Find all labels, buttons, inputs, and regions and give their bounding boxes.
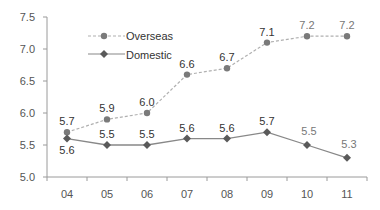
data-point-circle-marker-icon[interactable] [224, 65, 230, 71]
series-layer: 5.75.96.06.66.77.17.27.25.65.55.55.65.65… [59, 19, 356, 162]
y-tick-label: 7.0 [20, 43, 35, 55]
x-tick-label: 04 [61, 188, 73, 200]
data-label: 5.5 [99, 128, 114, 140]
data-label: 5.6 [59, 144, 74, 156]
legend-label-domestic: Domestic [126, 49, 172, 61]
line-chart: 5.05.56.06.57.07.5 0405060708091011 5.75… [0, 0, 380, 210]
legend-item-overseas[interactable]: Overseas [88, 30, 174, 42]
y-tick-label: 6.0 [20, 107, 35, 119]
x-tick-label: 10 [301, 188, 313, 200]
data-point-circle-marker-icon[interactable] [304, 33, 310, 39]
y-tick-label: 6.5 [20, 75, 35, 87]
data-point-diamond-marker-icon[interactable] [303, 141, 311, 149]
data-point-circle-marker-icon[interactable] [344, 33, 350, 39]
data-point-circle-marker-icon[interactable] [104, 116, 110, 122]
x-tick-label: 07 [181, 188, 193, 200]
y-tick-label: 7.5 [20, 11, 35, 23]
legend: Overseas Domestic [88, 30, 174, 61]
data-point-diamond-marker-icon[interactable] [343, 154, 351, 162]
data-point-circle-marker-icon[interactable] [264, 39, 270, 45]
data-label: 5.7 [59, 115, 74, 127]
data-label: 5.5 [301, 125, 316, 137]
data-point-circle-marker-icon[interactable] [184, 71, 190, 77]
data-point-circle-marker-icon[interactable] [144, 110, 150, 116]
data-label: 7.1 [259, 26, 274, 38]
data-point-diamond-marker-icon[interactable] [143, 141, 151, 149]
data-point-diamond-marker-icon[interactable] [183, 135, 191, 143]
x-tick-label: 08 [221, 188, 233, 200]
data-label: 6.0 [139, 96, 154, 108]
data-label: 7.2 [339, 19, 354, 31]
legend-item-domestic[interactable]: Domestic [88, 49, 172, 61]
x-tick-label: 06 [141, 188, 153, 200]
series-domestic: 5.65.55.55.65.65.75.55.3 [59, 115, 356, 162]
data-label: 5.5 [139, 128, 154, 140]
x-tick-label: 09 [261, 188, 273, 200]
data-label: 7.2 [299, 19, 314, 31]
y-tick-label: 5.0 [20, 171, 35, 183]
data-label: 5.7 [259, 115, 274, 127]
data-label: 5.3 [341, 138, 356, 150]
legend-diamond-marker-icon [100, 50, 108, 58]
data-point-diamond-marker-icon[interactable] [103, 141, 111, 149]
data-point-diamond-marker-icon[interactable] [263, 128, 271, 136]
data-point-diamond-marker-icon[interactable] [63, 135, 71, 143]
data-label: 6.6 [179, 58, 194, 70]
data-point-circle-marker-icon[interactable] [64, 129, 70, 135]
y-axis: 5.05.56.06.57.07.5 [20, 11, 47, 183]
data-label: 5.6 [219, 122, 234, 134]
x-tick-label: 11 [341, 188, 352, 200]
legend-circle-marker-icon [101, 33, 107, 39]
data-point-diamond-marker-icon[interactable] [223, 135, 231, 143]
data-label: 5.9 [99, 102, 114, 114]
legend-label-overseas: Overseas [126, 30, 174, 42]
y-tick-label: 5.5 [20, 139, 35, 151]
x-tick-label: 05 [101, 188, 113, 200]
x-axis: 0405060708091011 [47, 177, 367, 200]
data-label: 5.6 [179, 122, 194, 134]
data-label: 6.7 [219, 51, 234, 63]
